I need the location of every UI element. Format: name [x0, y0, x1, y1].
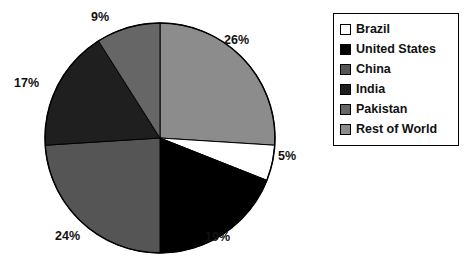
legend-swatch-icon: [340, 124, 351, 135]
legend-item-china[interactable]: China: [340, 59, 452, 79]
legend-swatch-icon: [340, 44, 351, 55]
legend-item-brazil[interactable]: Brazil: [340, 19, 452, 39]
legend-item-india[interactable]: India: [340, 79, 452, 99]
slice-label-china: 24%: [55, 229, 80, 243]
legend-item-rest-of-world[interactable]: Rest of World: [340, 119, 452, 139]
pie-slice[interactable]: [160, 23, 275, 145]
pie-slice-group: [45, 23, 275, 253]
pie-svg: [0, 0, 330, 269]
chart-plot-area: 26% 5% 19% 24% 17% 9%: [0, 0, 330, 269]
slice-label-india: 17%: [14, 76, 39, 90]
legend-item-label: Pakistan: [356, 103, 407, 116]
chart-legend: Brazil United States China India Pakista…: [333, 13, 459, 146]
legend-swatch-icon: [340, 24, 351, 35]
pie-chart-figure: 26% 5% 19% 24% 17% 9% Brazil United Stat…: [0, 0, 467, 269]
slice-label-brazil: 5%: [278, 149, 296, 163]
legend-item-pakistan[interactable]: Pakistan: [340, 99, 452, 119]
legend-item-united-states[interactable]: United States: [340, 39, 452, 59]
slice-label-rest-of-world: 26%: [224, 33, 249, 47]
legend-item-label: Rest of World: [356, 123, 437, 136]
legend-swatch-icon: [340, 104, 351, 115]
legend-item-label: India: [356, 83, 385, 96]
slice-label-pakistan: 9%: [91, 10, 109, 24]
legend-item-label: China: [356, 63, 391, 76]
legend-swatch-icon: [340, 84, 351, 95]
legend-item-label: Brazil: [356, 23, 390, 36]
legend-item-label: United States: [356, 43, 436, 56]
legend-swatch-icon: [340, 64, 351, 75]
slice-label-united-states: 19%: [205, 230, 230, 244]
